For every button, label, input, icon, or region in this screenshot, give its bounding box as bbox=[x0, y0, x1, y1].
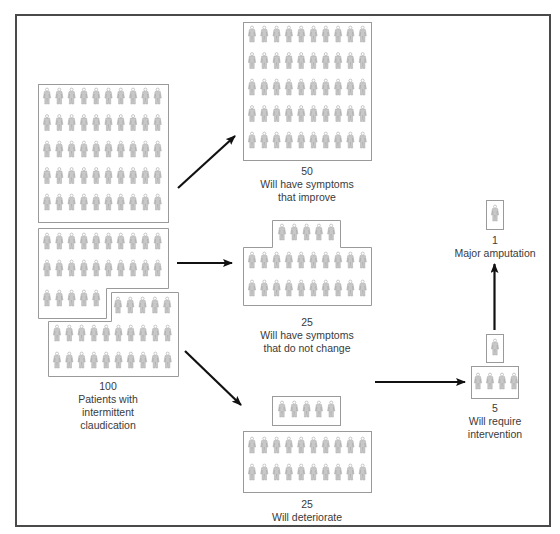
person-figure-icon bbox=[43, 115, 50, 131]
person-figure-icon bbox=[310, 106, 317, 122]
person-figure-icon bbox=[335, 132, 342, 148]
person-figure-icon bbox=[347, 252, 354, 268]
person-figure-icon bbox=[142, 194, 149, 210]
person-figure-icon bbox=[298, 132, 305, 148]
unchanged-count: 25 bbox=[232, 316, 382, 329]
person-figure-icon bbox=[154, 168, 161, 184]
person-figure-icon bbox=[273, 53, 280, 69]
person-figure-icon bbox=[322, 79, 329, 95]
person-figure-icon bbox=[347, 132, 354, 148]
person-figure-icon bbox=[93, 168, 100, 184]
person-figure-icon bbox=[93, 194, 100, 210]
person-figure-icon bbox=[273, 464, 280, 480]
person-figure-icon bbox=[80, 233, 87, 249]
person-figure-icon bbox=[130, 233, 137, 249]
person-figure-icon bbox=[68, 168, 75, 184]
person-figure-icon bbox=[130, 168, 137, 184]
person-figure-icon bbox=[359, 132, 366, 148]
person-figure-icon bbox=[285, 106, 292, 122]
person-figure-icon bbox=[273, 437, 280, 453]
person-figure-icon bbox=[130, 194, 137, 210]
person-figure-icon bbox=[261, 53, 268, 69]
person-figure-icon bbox=[93, 141, 100, 157]
person-figure-icon bbox=[285, 464, 292, 480]
person-figure-icon bbox=[43, 194, 50, 210]
intervention-count: 5 bbox=[445, 402, 545, 415]
person-figure-icon bbox=[53, 352, 60, 368]
person-figure-icon bbox=[56, 233, 63, 249]
person-figure-icon bbox=[335, 53, 342, 69]
person-figure-icon bbox=[347, 79, 354, 95]
amputation-count: 1 bbox=[440, 234, 550, 247]
person-figure-icon bbox=[114, 297, 121, 313]
person-figure-icon bbox=[261, 280, 268, 296]
person-figure-icon bbox=[142, 115, 149, 131]
person-figure-icon bbox=[115, 352, 122, 368]
person-figure-icon bbox=[93, 233, 100, 249]
person-figure-icon bbox=[105, 194, 112, 210]
person-figure-icon bbox=[248, 53, 255, 69]
person-figure-icon bbox=[164, 297, 171, 313]
person-figure-icon bbox=[298, 26, 305, 42]
person-figure-icon bbox=[154, 88, 161, 104]
person-figure-icon bbox=[43, 168, 50, 184]
person-figure-icon bbox=[335, 280, 342, 296]
person-figure-icon bbox=[142, 233, 149, 249]
person-figure-icon bbox=[291, 224, 298, 240]
person-figure-icon bbox=[80, 141, 87, 157]
person-figure-icon bbox=[103, 325, 110, 341]
person-figure-icon bbox=[261, 26, 268, 42]
person-figure-icon bbox=[285, 79, 292, 95]
person-figure-icon bbox=[285, 252, 292, 268]
person-figure-icon bbox=[322, 26, 329, 42]
person-figure-icon bbox=[474, 373, 481, 389]
person-figure-icon bbox=[359, 280, 366, 296]
person-figure-icon bbox=[68, 290, 75, 306]
person-figure-icon bbox=[130, 141, 137, 157]
person-figure-icon bbox=[261, 437, 268, 453]
person-figure-icon bbox=[93, 115, 100, 131]
person-figure-icon bbox=[93, 260, 100, 276]
person-figure-icon bbox=[105, 233, 112, 249]
person-figure-icon bbox=[80, 168, 87, 184]
person-figure-icon bbox=[56, 141, 63, 157]
person-figure-icon bbox=[117, 260, 124, 276]
person-figure-icon bbox=[261, 106, 268, 122]
person-figure-icon bbox=[335, 106, 342, 122]
person-figure-icon bbox=[105, 260, 112, 276]
person-figure-icon bbox=[298, 79, 305, 95]
person-figure-icon bbox=[90, 325, 97, 341]
person-figure-icon bbox=[315, 401, 322, 417]
person-figure-icon bbox=[285, 53, 292, 69]
person-figure-icon bbox=[347, 437, 354, 453]
person-figure-icon bbox=[310, 252, 317, 268]
person-figure-icon bbox=[285, 26, 292, 42]
person-figure-icon bbox=[278, 401, 285, 417]
person-figure-icon bbox=[80, 260, 87, 276]
person-figure-icon bbox=[154, 233, 161, 249]
person-figure-icon bbox=[117, 88, 124, 104]
person-figure-icon bbox=[335, 252, 342, 268]
person-figure-icon bbox=[154, 141, 161, 157]
person-figure-icon bbox=[359, 79, 366, 95]
person-figure-icon bbox=[322, 53, 329, 69]
person-figure-icon bbox=[298, 437, 305, 453]
deteriorate-caption: 25 Will deteriorate bbox=[232, 498, 382, 524]
person-figure-icon bbox=[68, 88, 75, 104]
person-figure-icon bbox=[105, 168, 112, 184]
person-figure-icon bbox=[78, 325, 85, 341]
person-figure-icon bbox=[310, 464, 317, 480]
person-figure-icon bbox=[127, 352, 134, 368]
diagram-canvas bbox=[0, 0, 560, 534]
person-figure-icon bbox=[261, 464, 268, 480]
person-figure-icon bbox=[130, 88, 137, 104]
deteriorate-count: 25 bbox=[232, 498, 382, 511]
person-figure-icon bbox=[273, 106, 280, 122]
person-figure-icon bbox=[56, 194, 63, 210]
person-figure-icon bbox=[78, 352, 85, 368]
person-figure-icon bbox=[303, 401, 310, 417]
person-figure-icon bbox=[43, 233, 50, 249]
person-figure-icon bbox=[43, 141, 50, 157]
person-figure-icon bbox=[105, 141, 112, 157]
person-figure-icon bbox=[298, 464, 305, 480]
